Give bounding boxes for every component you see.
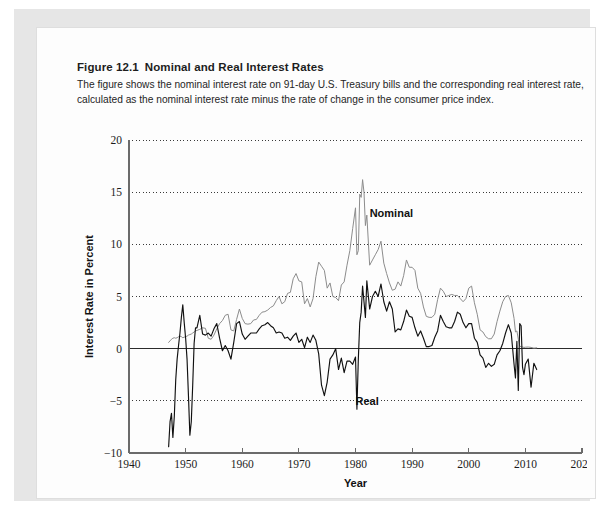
- figure-outer-frame: Figure 12.1Nominal and Real Interest Rat…: [14, 9, 590, 501]
- x-axis-title: Year: [344, 477, 368, 489]
- x-tick-label-2010: 2010: [514, 458, 537, 470]
- x-tick-label-2000: 2000: [457, 458, 480, 470]
- y-axis-tick-labels: −10−505101520: [104, 134, 122, 459]
- axis-ticks: [129, 448, 582, 453]
- figure-page: Figure 12.1Nominal and Real Interest Rat…: [0, 0, 604, 514]
- annotation-nominal: Nominal: [370, 207, 413, 219]
- y-tick-label-15: 15: [111, 186, 123, 198]
- x-tick-label-1950: 1950: [174, 458, 197, 470]
- series-line-real: [169, 281, 537, 447]
- y-tick-label-5: 5: [116, 291, 122, 303]
- x-tick-label-1960: 1960: [231, 458, 254, 470]
- figure-title: Figure 12.1Nominal and Real Interest Rat…: [77, 61, 597, 73]
- annotation-real: Real: [356, 395, 379, 407]
- figure-caption: Figure 12.1Nominal and Real Interest Rat…: [77, 61, 597, 107]
- y-tick-label-0: 0: [116, 343, 122, 355]
- y-tick-label-20: 20: [111, 134, 123, 146]
- y-axis-title: Interest Rate in Percent: [83, 235, 95, 358]
- chart-plot-area: −10−505101520 19401950196019701980199020…: [77, 128, 587, 508]
- x-tick-label-1980: 1980: [344, 458, 367, 470]
- figure-number: Figure 12.1: [77, 61, 139, 73]
- x-tick-label-2020: 2020: [571, 458, 588, 470]
- x-tick-label-1970: 1970: [287, 458, 310, 470]
- x-tick-label-1940: 1940: [118, 458, 141, 470]
- figure-card: Figure 12.1Nominal and Real Interest Rat…: [36, 27, 596, 499]
- data-series: [169, 180, 537, 447]
- figure-title-text: Nominal and Real Interest Rates: [145, 61, 324, 73]
- figure-description: The figure shows the nominal interest ra…: [77, 78, 595, 107]
- series-line-nominal: [169, 180, 537, 348]
- x-axis-tick-labels: 194019501960197019801990200020102020: [118, 458, 588, 470]
- interest-rate-line-chart: −10−505101520 19401950196019701980199020…: [77, 128, 587, 508]
- y-tick-label--5: −5: [110, 395, 122, 407]
- y-tick-label-10: 10: [111, 238, 123, 250]
- x-tick-label-1990: 1990: [401, 458, 424, 470]
